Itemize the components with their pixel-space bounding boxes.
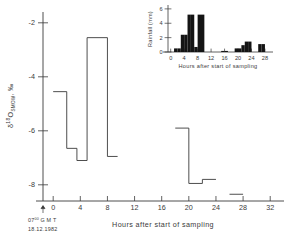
figure-container: -2-4-6-8 048121620242832 δ18OSMOW, ‰ Hou… bbox=[0, 0, 287, 241]
inset-bar bbox=[258, 44, 261, 52]
stamp-hour-superscript: 00 bbox=[35, 217, 40, 221]
main-y-tick-label: -6 bbox=[29, 126, 35, 135]
inset-bar-series bbox=[174, 15, 265, 52]
main-step-line bbox=[53, 38, 243, 195]
main-ylabel-subscript: SMOW bbox=[11, 95, 16, 111]
main-x-tick-label: 24 bbox=[212, 203, 220, 212]
inset-bar bbox=[184, 35, 187, 52]
inset-bar bbox=[201, 15, 204, 52]
stamp-line-1: 0700G M T bbox=[28, 217, 57, 223]
inset-bar bbox=[191, 15, 194, 52]
main-x-tick-label: 16 bbox=[158, 203, 166, 212]
inset-bar bbox=[198, 15, 201, 52]
start-arrow-icon bbox=[41, 206, 45, 213]
inset-y-tick-label: 4 bbox=[159, 20, 162, 26]
inset-bar bbox=[248, 42, 251, 52]
inset-y-axis-title: Rainfall (mm) bbox=[147, 11, 153, 47]
main-x-ticks bbox=[53, 196, 270, 201]
inset-plot: 0246 0481216202428 Rainfall (mm) Hours a… bbox=[147, 5, 273, 69]
main-y-tick-labels: -2-4-6-8 bbox=[29, 18, 35, 189]
inset-bar bbox=[174, 48, 177, 52]
inset-x-tick-label: 20 bbox=[235, 55, 241, 61]
inset-bar bbox=[238, 48, 241, 52]
inset-ylabel-text: Rainfall (mm) bbox=[147, 11, 153, 47]
main-x-tick-label: 32 bbox=[266, 203, 274, 212]
inset-x-tick-label: 0 bbox=[169, 55, 172, 61]
inset-bar bbox=[235, 48, 238, 52]
inset-bar bbox=[262, 44, 265, 52]
inset-bar bbox=[245, 42, 248, 52]
stamp-gmt: G M T bbox=[40, 217, 57, 223]
main-y-axis-title: δ18OSMOW, ‰ bbox=[5, 84, 16, 128]
main-x-tick-label: 8 bbox=[105, 203, 109, 212]
inset-x-axis-title: Hours after start of sampling bbox=[179, 63, 258, 69]
main-x-axis-title: Hours after start of sampling bbox=[112, 220, 214, 229]
main-data-series bbox=[53, 38, 243, 195]
main-ylabel-tail: , ‰ bbox=[6, 84, 15, 96]
inset-x-tick-label: 12 bbox=[208, 55, 214, 61]
main-x-tick-label: 20 bbox=[185, 203, 193, 212]
inset-x-tick-label: 24 bbox=[248, 55, 254, 61]
inset-x-tick-label: 4 bbox=[183, 55, 186, 61]
inset-bar bbox=[194, 47, 197, 52]
isotope-rainfall-figure: -2-4-6-8 048121620242832 δ18OSMOW, ‰ Hou… bbox=[0, 0, 287, 241]
stamp-line-2: 18.12.1982 bbox=[28, 226, 57, 232]
main-x-tick-label: 28 bbox=[239, 203, 247, 212]
inset-y-tick-label: 6 bbox=[159, 6, 162, 12]
inset-y-tick-label: 0 bbox=[159, 49, 162, 55]
inset-x-tick-label: 16 bbox=[221, 55, 227, 61]
main-x-tick-labels: 048121620242832 bbox=[51, 203, 274, 212]
inset-bar bbox=[181, 35, 184, 52]
inset-bar bbox=[177, 48, 180, 52]
inset-bar bbox=[241, 45, 244, 52]
main-x-tick-label: 0 bbox=[51, 203, 55, 212]
main-y-tick-label: -8 bbox=[29, 180, 35, 189]
main-x-tick-label: 12 bbox=[131, 203, 139, 212]
svg-text:δ18OSMOW, ‰: δ18OSMOW, ‰ bbox=[5, 84, 16, 128]
inset-bar bbox=[221, 51, 224, 52]
main-y-tick-label: -2 bbox=[29, 18, 35, 27]
main-x-tick-label: 4 bbox=[78, 203, 82, 212]
inset-y-tick-label: 2 bbox=[159, 35, 162, 41]
inset-x-tick-label: 8 bbox=[196, 55, 199, 61]
inset-bar bbox=[225, 51, 228, 52]
inset-x-tick-labels: 0481216202428 bbox=[169, 55, 268, 61]
inset-bar bbox=[188, 15, 191, 52]
inset-y-tick-labels: 0246 bbox=[159, 6, 162, 55]
inset-x-tick-label: 28 bbox=[262, 55, 268, 61]
main-y-tick-label: -4 bbox=[29, 72, 35, 81]
main-plot: -2-4-6-8 048121620242832 δ18OSMOW, ‰ Hou… bbox=[5, 12, 284, 232]
